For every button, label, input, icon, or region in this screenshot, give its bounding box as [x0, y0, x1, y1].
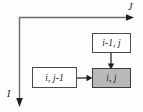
node-i-j-minus-1[interactable]: i, j-1 [32, 67, 77, 88]
node-i-minus-1-j[interactable]: i-1, j [92, 33, 131, 53]
i-axis-label: I [7, 88, 10, 99]
i-axis-arrowhead-icon [16, 98, 23, 107]
j-axis-label: J [128, 1, 132, 12]
axes-and-arrows-layer [0, 0, 143, 112]
j-axis-arrowhead-icon [126, 14, 134, 21]
node-i-j[interactable]: i, j [92, 68, 131, 88]
stencil-diagram: J I i-1, j i, j-1 i, j [0, 0, 143, 112]
